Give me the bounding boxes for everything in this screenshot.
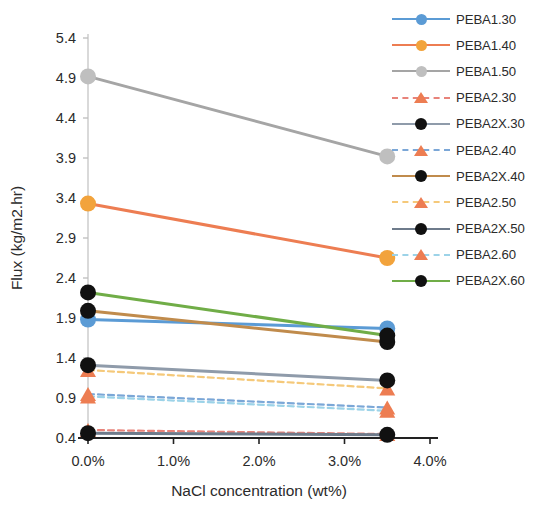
legend-label: PEBA1.30 [450,12,516,27]
legend-key [392,270,450,292]
series-marker-circle [80,425,96,441]
legend-marker-circle-icon [415,170,427,182]
legend-item[interactable]: PEBA2.60 [392,242,535,268]
legend-label: PEBA2.50 [450,195,516,210]
y-tick-label: 3.4 [56,190,76,206]
x-tick-label: 3.0% [328,453,361,469]
chart-screenshot: 0.40.91.41.92.42.93.43.94.44.95.40.0%1.0… [0,0,535,505]
series-marker-circle [80,284,96,300]
legend-marker-circle-icon [415,223,427,235]
series-line [88,204,387,258]
legend-item[interactable]: PEBA2X.30 [392,111,535,137]
series-line [88,396,387,410]
legend-marker-circle-icon [416,14,427,25]
series-marker-circle [80,303,96,319]
legend-item[interactable]: PEBA1.40 [392,32,535,58]
series-marker-circle [80,357,96,373]
legend-label: PEBA2X.60 [450,273,525,288]
y-tick-label: 2.9 [56,230,76,246]
legend-item[interactable]: PEBA2.50 [392,189,535,215]
x-tick-label: 4.0% [413,453,446,469]
x-tick-label: 0.0% [71,453,104,469]
legend-key [392,34,450,56]
legend-label: PEBA2X.50 [450,221,525,236]
legend-key [392,191,450,213]
legend-label: PEBA2X.40 [450,169,525,184]
legend-label: PEBA2.40 [450,143,516,158]
y-tick-label: 0.9 [56,390,76,406]
legend-item[interactable]: PEBA2X.40 [392,163,535,189]
y-tick-label: 0.4 [56,430,76,446]
x-axis-title: NaCl concentration (wt%) [171,482,347,499]
legend-label: PEBA2.60 [450,247,516,262]
y-axis-title: Flux (kg/m2.hr) [8,186,25,290]
legend-item[interactable]: PEBA2X.60 [392,268,535,294]
legend-key [392,60,450,82]
legend-label: PEBA1.50 [450,64,516,79]
y-tick-label: 5.4 [56,30,76,46]
legend-marker-triangle-icon [414,249,428,260]
y-tick-label: 1.4 [56,350,76,366]
legend-label: PEBA2X.30 [450,116,525,131]
series-marker-circle [80,68,96,84]
legend-marker-circle-icon [415,275,427,287]
legend-item[interactable]: PEBA2.30 [392,85,535,111]
legend-marker-circle-icon [416,66,427,77]
y-tick-label: 3.9 [56,150,76,166]
series-line [88,433,387,435]
series-line [88,76,387,156]
legend-marker-circle-icon [416,40,427,51]
x-tick-label: 1.0% [157,453,190,469]
legend-key [392,244,450,266]
chart-legend: PEBA1.30PEBA1.40PEBA1.50PEBA2.30PEBA2X.3… [392,6,535,294]
legend-label: PEBA2.30 [450,90,516,105]
y-tick-label: 4.4 [56,110,76,126]
legend-item[interactable]: PEBA1.50 [392,58,535,84]
legend-label: PEBA1.40 [450,38,516,53]
x-tick-label: 2.0% [242,453,275,469]
legend-marker-triangle-icon [414,92,428,103]
y-tick-label: 2.4 [56,270,76,286]
legend-key [392,8,450,30]
legend-key [392,139,450,161]
y-tick-label: 4.9 [56,70,76,86]
series-marker-circle [379,328,395,344]
legend-key [392,87,450,109]
y-tick-label: 1.9 [56,310,76,326]
legend-key [392,165,450,187]
legend-item[interactable]: PEBA2X.50 [392,216,535,242]
legend-marker-triangle-icon [414,145,428,156]
legend-key [392,218,450,240]
legend-marker-triangle-icon [414,197,428,208]
legend-marker-circle-icon [415,118,427,130]
series-marker-circle [379,427,395,443]
legend-key [392,113,450,135]
series-marker-circle [379,372,395,388]
series-line [88,394,387,408]
series-marker-circle [80,196,96,212]
legend-item[interactable]: PEBA2.40 [392,137,535,163]
legend-item[interactable]: PEBA1.30 [392,6,535,32]
